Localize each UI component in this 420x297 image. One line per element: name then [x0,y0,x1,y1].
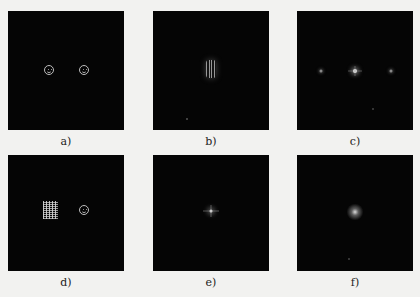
panel-label-e: e) [153,276,269,289]
faint-dot [186,118,188,120]
panel-f [297,155,413,271]
center-cross-v [355,66,356,76]
panel-d [8,155,124,271]
panel-b [153,11,269,130]
smiley-face-icon [44,65,54,75]
panel-a [8,11,124,130]
side-peak-left [320,70,323,73]
panel-label-b: b) [153,135,269,148]
panel-c [297,11,413,130]
panel-label-c: c) [297,135,413,148]
smiley-face-icon [79,205,89,215]
smiley-face-icon [79,65,89,75]
panel-label-d: d) [8,276,124,289]
side-peak-right [390,70,393,73]
noise-patch [43,201,58,219]
faint-dot [372,108,374,110]
panel-label-a: a) [8,135,124,148]
panel-e [153,155,269,271]
diffuse-glow [347,204,363,220]
panel-label-f: f) [297,276,413,289]
center-cross-v [211,205,212,217]
striped-spectrum-spot [206,60,216,78]
faint-dot [348,258,350,260]
